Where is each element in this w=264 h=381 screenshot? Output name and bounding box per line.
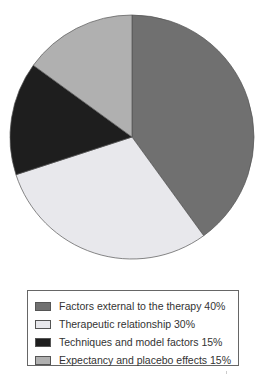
legend-item: Factors external to the therapy 40% — [35, 297, 238, 315]
legend-label: Techniques and model factors 15% — [59, 336, 222, 348]
legend-swatch-2 — [35, 338, 51, 347]
page-mark — [226, 371, 227, 374]
legend-swatch-3 — [35, 356, 51, 365]
legend-label: Therapeutic relationship 30% — [59, 318, 195, 330]
legend-item: Techniques and model factors 15% — [35, 333, 238, 351]
legend-item: Therapeutic relationship 30% — [35, 315, 238, 333]
legend-label: Factors external to the therapy 40% — [59, 300, 225, 312]
legend-label: Expectancy and placebo effects 15% — [59, 354, 231, 366]
legend-swatch-1 — [35, 320, 51, 329]
legend-swatch-0 — [35, 302, 51, 311]
chart-legend: Factors external to the therapy 40% Ther… — [27, 290, 239, 366]
legend-item: Expectancy and placebo effects 15% — [35, 351, 238, 369]
pie-chart — [0, 0, 264, 280]
